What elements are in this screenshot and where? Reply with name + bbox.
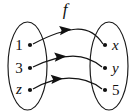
codomain-label-y: y	[110, 60, 119, 76]
domain-label-3: 3	[15, 60, 23, 76]
codomain-label-5: 5	[112, 82, 120, 98]
function-mapping-diagram: f 1 3 z x y	[0, 0, 132, 111]
diagram-canvas: f 1 3 z x y	[0, 0, 132, 111]
mapping-3-to-y	[33, 52, 102, 67]
domain-dot-z	[28, 88, 32, 92]
arrowhead-z-to-5	[51, 74, 64, 84]
codomain-dot-x	[103, 43, 107, 47]
domain-label-z: z	[15, 81, 22, 97]
codomain-dot-y	[103, 66, 107, 70]
arrowhead-3-to-y	[54, 52, 67, 62]
function-label: f	[63, 0, 70, 19]
domain-dot-1	[28, 43, 32, 47]
domain-oval	[8, 22, 47, 110]
codomain-dot-5	[103, 88, 107, 92]
codomain-label-x: x	[111, 37, 119, 53]
domain-dot-3	[28, 66, 32, 70]
domain-label-1: 1	[15, 37, 23, 53]
mapping-curve-3-to-y	[33, 56, 102, 67]
arrowhead-1-to-x	[59, 25, 72, 35]
